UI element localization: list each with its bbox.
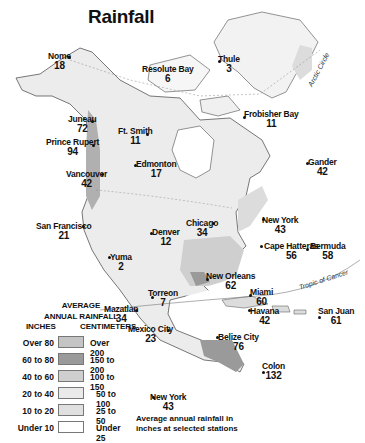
station-dot (151, 296, 154, 299)
station-dot (134, 164, 137, 167)
station-ft-smith: Ft. Smith11 (118, 127, 153, 145)
station-value: 21 (36, 231, 92, 240)
station-value: 42 (308, 167, 337, 176)
station-value: 42 (66, 179, 107, 188)
station-dot (306, 248, 309, 251)
legend-inches: 60 to 80 (10, 355, 54, 365)
legend-row: 40 to 60100 to 150 (10, 370, 125, 384)
station-bermuda: Bermuda58 (310, 242, 345, 260)
station-frobisher-bay: Frobisher Bay11 (244, 110, 299, 128)
station-juneau: Juneau72 (68, 115, 97, 133)
station-gander: Gander42 (308, 158, 337, 176)
station-miami: Miami60 (250, 288, 273, 306)
station-dot (260, 245, 263, 248)
station-value: 6 (142, 74, 193, 83)
legend-row: 60 to 80150 to 200 (10, 353, 125, 367)
station-dot (262, 218, 265, 221)
station-belize-city: Belize City76 (218, 333, 259, 351)
station-value: 132 (262, 371, 285, 380)
station-dot (206, 278, 209, 281)
legend-heading: AVERAGE ANNUAL RAINFALL (26, 300, 136, 322)
station-dot (152, 396, 155, 399)
legend-inches: 40 to 60 (10, 372, 54, 382)
station-yuma: Yuma2 (110, 253, 132, 271)
station-value: 42 (250, 316, 279, 325)
station-dot (218, 60, 221, 63)
station-dot (101, 173, 104, 176)
legend-swatch (58, 370, 84, 382)
station-value: 34 (186, 228, 218, 237)
station-dot (248, 309, 251, 312)
station-dot (108, 256, 111, 259)
station-san-juan: San Juan61 (318, 307, 354, 325)
legend-swatch (58, 353, 84, 365)
station-value: 76 (218, 342, 259, 351)
station-dot (249, 294, 252, 297)
station-dot (146, 133, 149, 136)
legend-row: 10 to 2025 to 50 (10, 404, 125, 418)
legend-inches: Over 80 (10, 338, 54, 348)
station-colon: Colon132 (262, 362, 285, 380)
station-dot (91, 120, 94, 123)
station-value: 12 (152, 237, 180, 246)
station-value: 11 (244, 119, 299, 128)
legend-swatch (58, 421, 84, 433)
key-example-value: 43 (150, 402, 186, 411)
station-denver: Denver12 (152, 228, 180, 246)
station-edmonton: Edmonton17 (136, 160, 176, 178)
station-havana: Havana42 (250, 307, 279, 325)
station-value: 11 (118, 136, 153, 145)
station-dot (306, 162, 309, 165)
station-value: 94 (46, 147, 99, 156)
key-note: Average annual rainfall in inches at sel… (136, 414, 238, 434)
station-prince-rupert: Prince Rupert94 (46, 138, 99, 156)
station-dot (262, 371, 265, 374)
legend-swatch (58, 336, 84, 348)
station-thule: Thule3 (218, 55, 240, 73)
station-value: 58 (310, 251, 345, 260)
legend-heading-line1: AVERAGE (26, 300, 136, 311)
legend-inches: 20 to 40 (10, 389, 54, 399)
station-value: 61 (318, 316, 354, 325)
station-value: 60 (250, 297, 273, 306)
station-dot (318, 316, 321, 319)
station-dot (167, 329, 170, 332)
station-dot (150, 232, 153, 235)
station-value: 62 (206, 281, 255, 290)
station-dot (92, 144, 95, 147)
station-value: 3 (218, 64, 240, 73)
legend-inches-header: INCHES (26, 321, 56, 332)
station-dot (82, 225, 85, 228)
station-value: 2 (110, 262, 132, 271)
legend-inches: Under 10 (10, 423, 54, 433)
key-example-station: New York 43 (150, 393, 186, 411)
station-value: 43 (262, 225, 298, 234)
legend-cm-header: CENTIMETERS (80, 321, 136, 332)
legend-row: Over 80Over 200 (10, 336, 125, 350)
station-new-orleans: New Orleans62 (206, 272, 255, 290)
legend-cm: Under 25 (96, 423, 125, 443)
station-value: 72 (68, 124, 97, 133)
station-value: 17 (136, 169, 176, 178)
legend-row: Under 10Under 25 (10, 421, 125, 435)
station-value: 23 (128, 334, 173, 343)
station-resolute-bay: Resolute Bay6 (142, 65, 193, 83)
station-value: 18 (48, 61, 71, 70)
legend-inches: 10 to 20 (10, 406, 54, 416)
legend-swatch (58, 387, 84, 399)
legend-swatch (58, 404, 84, 416)
legend-row: 20 to 4050 to 100 (10, 387, 125, 401)
station-nome: Nome18 (48, 52, 71, 70)
key-note-line2: inches at selected stations (136, 424, 238, 434)
key-note-line1: Average annual rainfall in (136, 414, 238, 424)
station-dot (243, 116, 246, 119)
station-dot (216, 336, 219, 339)
station-dot (212, 222, 215, 225)
station-new-york: New York43 (262, 216, 298, 234)
station-value: 7 (148, 298, 178, 307)
station-dot (68, 56, 71, 59)
